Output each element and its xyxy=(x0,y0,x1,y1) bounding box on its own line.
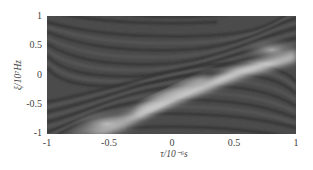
heatmap-image xyxy=(47,16,296,134)
ytick-label: 0.5 xyxy=(20,40,42,50)
ytick-label: 1 xyxy=(20,11,42,21)
plot-area xyxy=(47,16,296,134)
ytick-label: 0 xyxy=(20,70,42,80)
xtick-label: 1 xyxy=(281,138,311,148)
xtick-label: -1 xyxy=(32,138,62,148)
x-axis-label: τ/10⁻⁶s xyxy=(152,148,196,159)
xtick-label: -0.5 xyxy=(94,138,124,148)
xtick-label: 0 xyxy=(157,138,187,148)
y-axis-label: ξ/10⁷Hz xyxy=(13,50,23,100)
ambiguity-chart: 1 0.5 0 -0.5 -1 -1 -0.5 0 0.5 1 τ/10⁻⁶s … xyxy=(0,0,313,170)
xtick-label: 0.5 xyxy=(219,138,249,148)
ytick-label: -1 xyxy=(20,128,42,138)
ytick-label: -0.5 xyxy=(20,99,42,109)
